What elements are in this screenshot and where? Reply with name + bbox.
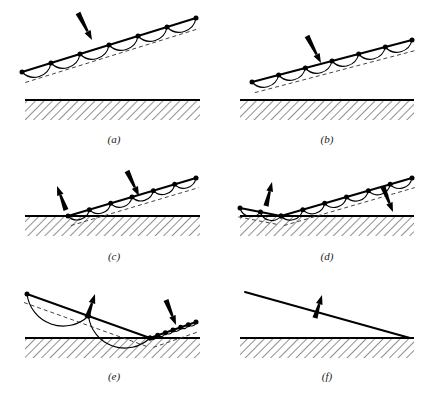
pinning-point [250, 80, 255, 85]
pinning-point [258, 210, 263, 215]
pinning-point [194, 16, 199, 21]
ground-hatch-e [25, 338, 200, 358]
up-arrow-d-0 [263, 182, 273, 207]
arrow-shaft [164, 299, 174, 317]
panel-caption-b: (b) [321, 133, 334, 145]
up-arrow-e-0 [85, 294, 96, 319]
arrow-shaft [76, 12, 89, 32]
pinning-point [178, 325, 183, 330]
arrow-head [57, 186, 64, 196]
pinning-point [300, 207, 305, 212]
pinning-point [163, 330, 168, 335]
pinning-point [344, 195, 349, 200]
pinning-point [322, 201, 327, 206]
pinning-point [165, 25, 170, 30]
pinning-point [194, 320, 199, 325]
arrow-head [85, 30, 92, 40]
pinning-point [303, 66, 308, 71]
panel-caption-d: (d) [321, 250, 334, 262]
down-arrow-c-1 [125, 170, 139, 196]
pinning-point [151, 188, 156, 193]
panel-caption-e: (e) [108, 370, 120, 382]
arrow-shaft [125, 170, 136, 188]
dashed-reference-line-b [255, 51, 415, 93]
ground-a [25, 100, 200, 120]
down-arrow-d-1 [381, 186, 393, 212]
pinning-point [172, 182, 177, 187]
pinning-point [410, 38, 415, 43]
pinning-point [20, 70, 25, 75]
arrow-shaft [59, 194, 68, 210]
ground-hatch-a [25, 100, 200, 120]
figure-canvas [0, 0, 428, 398]
panel-c [25, 170, 200, 236]
arrow-shaft [263, 191, 270, 207]
pinning-point [171, 328, 176, 333]
pinning-point [279, 214, 284, 219]
arrow-head [314, 53, 321, 63]
down-arrow-e-1 [164, 299, 176, 325]
pinning-point [148, 336, 153, 341]
arrow-shaft [305, 35, 318, 55]
pinning-point [155, 333, 160, 338]
panel-a [20, 12, 201, 120]
plain-interface-line-f [245, 292, 410, 338]
pinning-point [383, 45, 388, 50]
arrow-head [169, 315, 176, 325]
panels-layer [20, 12, 415, 358]
pinning-point [276, 73, 281, 78]
down-arrow-a-0 [76, 12, 92, 40]
pinning-point [130, 195, 135, 200]
pinning-point [66, 214, 71, 219]
ground-hatch-c [25, 216, 200, 236]
arrow-head [89, 294, 95, 304]
ground-b [240, 100, 414, 120]
ground-f [240, 338, 414, 358]
ground-c [25, 216, 200, 236]
panel-d [238, 176, 415, 237]
pinning-point [330, 59, 335, 64]
figure-root: (a)(b)(c)(d)(e)(f) [0, 0, 428, 398]
arrow-head [132, 186, 139, 196]
pinning-point [356, 52, 361, 57]
segment-group-a [20, 16, 200, 83]
up-arrow-f-0 [313, 295, 323, 319]
up-arrow-c-0 [57, 186, 68, 211]
pinning-point [87, 207, 92, 212]
ground-e [25, 338, 200, 358]
panel-caption-c: (c) [108, 250, 120, 262]
pinning-point [25, 292, 30, 297]
panel-e [24, 292, 200, 359]
panel-caption-a: (a) [108, 133, 121, 145]
pinning-point [78, 52, 83, 57]
pinning-point [136, 34, 141, 39]
arrow-head [316, 295, 323, 305]
arrow-head [266, 182, 273, 192]
pinning-point [194, 176, 199, 181]
ground-hatch-b [240, 100, 414, 120]
pinning-point [186, 322, 191, 327]
panel-f [240, 292, 414, 358]
bowed-segment-arc [27, 294, 89, 326]
pinning-point [49, 61, 54, 66]
panel-b [240, 35, 415, 120]
panel-caption-f: (f) [322, 370, 332, 382]
pinning-point [410, 176, 415, 181]
pinning-point [238, 206, 243, 211]
arrow-head [386, 202, 393, 212]
segment-group-b [250, 38, 415, 93]
pinning-point [388, 182, 393, 187]
pinning-point [366, 188, 371, 193]
dashed-reference-line-a [25, 29, 199, 83]
pinning-point [108, 201, 113, 206]
down-arrow-b-0 [305, 35, 321, 63]
ground-hatch-f [240, 338, 414, 358]
pinning-point [107, 43, 112, 48]
